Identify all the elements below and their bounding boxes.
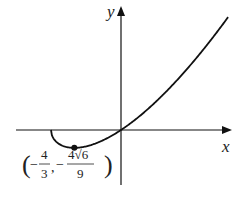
x-axis-label: x — [221, 137, 230, 156]
y-axis-arrow-icon — [117, 6, 125, 16]
label-close-paren: ) — [104, 150, 113, 179]
minimum-point-label: ( − 4 3 , − 4√6 9 ) — [22, 147, 113, 181]
label-x-denominator: 3 — [41, 166, 48, 181]
label-x-sign: − — [30, 157, 38, 172]
label-y-denominator: 9 — [77, 166, 84, 181]
label-y-sign: − — [56, 157, 64, 172]
label-x-numerator: 4 — [41, 147, 48, 162]
x-axis-arrow-icon — [222, 126, 232, 134]
y-axis-label: y — [105, 2, 115, 21]
function-graph: y x ( − 4 3 , − 4√6 9 ) — [0, 0, 242, 204]
label-y-numerator: 4√6 — [68, 147, 89, 162]
function-curve — [51, 17, 228, 148]
label-separator: , — [51, 160, 55, 175]
